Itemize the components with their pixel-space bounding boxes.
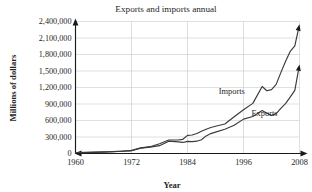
y-axis-title: Millions of dollars bbox=[8, 54, 18, 122]
chart-background bbox=[0, 0, 312, 192]
x-tick-label: 1972 bbox=[123, 158, 140, 167]
x-tick-label: 1996 bbox=[235, 158, 252, 167]
x-tick-label: 2008 bbox=[291, 158, 308, 167]
x-tick-label: 1984 bbox=[179, 158, 197, 167]
y-tick-label: 1,800,000 bbox=[39, 50, 72, 59]
y-tick-label: 2,100,000 bbox=[39, 34, 72, 43]
x-axis-title: Year bbox=[163, 180, 180, 190]
chart-container: Exports and imports annual 0300,000600,0… bbox=[0, 0, 312, 192]
y-tick-label: 1,200,000 bbox=[39, 83, 72, 92]
y-tick-label: 900,000 bbox=[45, 100, 72, 109]
series-label-exports: Exports bbox=[251, 109, 277, 118]
series-label-imports: Imports bbox=[219, 87, 245, 96]
chart-title: Exports and imports annual bbox=[115, 4, 217, 14]
x-tick-label: 1960 bbox=[67, 158, 84, 167]
y-tick-label: 1,500,000 bbox=[39, 67, 72, 76]
y-tick-label: 2,400,000 bbox=[39, 17, 72, 26]
y-tick-label: 300,000 bbox=[45, 133, 72, 142]
exports-imports-line-chart: Exports and imports annual 0300,000600,0… bbox=[0, 0, 312, 192]
y-tick-label: 600,000 bbox=[45, 116, 72, 125]
